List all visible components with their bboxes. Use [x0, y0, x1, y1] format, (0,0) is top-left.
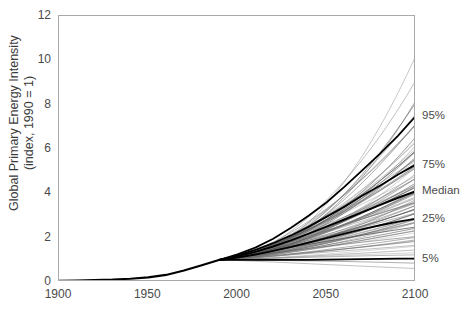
percentile-label: Median: [422, 184, 460, 196]
y-tick-label: 10: [25, 52, 51, 66]
percentile-label: 25%: [422, 212, 445, 224]
historical-curve: [59, 260, 220, 281]
x-tick-label: 1950: [134, 287, 161, 301]
percentile-label: 75%: [422, 158, 445, 170]
energy-intensity-chart: Global Primary Energy Intensity (index, …: [0, 0, 465, 317]
x-tick-label: 1900: [45, 287, 72, 301]
percentile-label: 5%: [422, 252, 439, 264]
y-axis-title-line1: Global Primary Energy Intensity: [7, 35, 21, 211]
x-tick-label: 2000: [223, 287, 250, 301]
plot-area: [58, 15, 415, 281]
plot-lines: [59, 16, 415, 281]
y-tick-label: 0: [25, 274, 51, 288]
y-axis-title-line2: (index, 1990 = 1): [22, 0, 37, 248]
y-tick-label: 4: [25, 185, 51, 199]
y-tick-label: 8: [25, 97, 51, 111]
percentile-label: 95%: [422, 109, 445, 121]
y-tick-label: 6: [25, 141, 51, 155]
scenario-ensemble-lines: [220, 55, 415, 268]
y-tick-label: 2: [25, 230, 51, 244]
y-tick-label: 12: [25, 8, 51, 22]
x-tick-label: 2050: [312, 287, 339, 301]
historical-line: [59, 260, 220, 281]
x-tick-label: 2100: [402, 287, 429, 301]
y-axis-title: Global Primary Energy Intensity (index, …: [7, 0, 37, 248]
